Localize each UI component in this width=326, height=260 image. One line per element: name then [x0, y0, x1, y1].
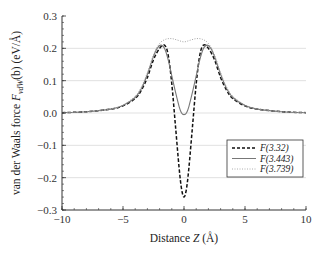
x-axis-ticks: −10−50510	[53, 206, 312, 225]
x-tick-label: −10	[53, 213, 71, 225]
legend-label-f3443: F(3.443)	[259, 154, 294, 165]
y-tick-label: 0.3	[43, 10, 57, 22]
legend-label-f3739: F(3.739)	[259, 164, 294, 175]
x-tick-label: −5	[117, 213, 129, 225]
chart: 0.30.20.10.0−0.1−0.2−0.3 −10−50510 van d…	[0, 0, 326, 260]
y-tick-label: −0.2	[37, 172, 57, 184]
y-axis-label-prefix: van der Waals force	[10, 101, 22, 195]
y-tick-label: 0.1	[43, 75, 57, 87]
curve-series-1	[62, 45, 306, 115]
curve-series-2	[62, 39, 306, 113]
y-tick-label: 0.2	[43, 42, 57, 54]
x-axis-label-prefix: Distance	[150, 232, 193, 244]
y-axis-label-unit: (b) (eV/Å)	[9, 31, 23, 80]
y-axis-label: van der Waals force FvdW(b) (eV/Å)	[9, 31, 25, 195]
legend: F(3.32) F(3.443) F(3.739)	[227, 140, 303, 177]
y-axis-label-subscript: vdW	[16, 78, 25, 94]
x-axis-label-unit: (Å)	[199, 231, 218, 245]
x-tick-label: 5	[242, 213, 248, 225]
x-tick-label: 0	[181, 213, 187, 225]
x-tick-label: 10	[301, 213, 313, 225]
x-axis-label: Distance Z (Å)	[150, 231, 219, 245]
y-tick-label: −0.1	[37, 139, 57, 151]
y-tick-label: 0.0	[43, 107, 57, 119]
legend-label-f332: F(3.32)	[259, 143, 289, 154]
